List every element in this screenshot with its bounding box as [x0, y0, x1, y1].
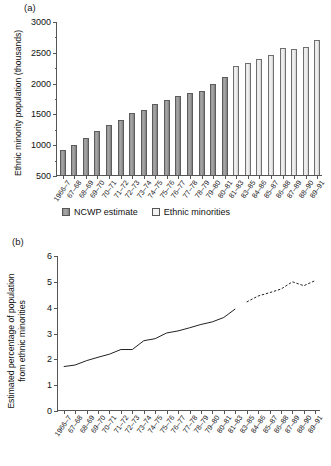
x-axis-tick — [225, 175, 226, 179]
y-axis-tick-label: 1 — [47, 381, 52, 390]
bar-69-70 — [94, 131, 100, 175]
bar-84-86 — [256, 59, 262, 175]
bar-81-83 — [233, 66, 239, 175]
x-axis-tick — [63, 175, 64, 179]
y-axis-tick-label: 2000 — [31, 79, 51, 88]
x-axis-tick — [167, 175, 168, 179]
bar-72-73 — [129, 113, 135, 175]
y-axis-tick-label: 2 — [47, 355, 52, 364]
ethnic-minorities-swatch-icon — [152, 208, 160, 216]
y-axis-tick-label: 2500 — [31, 48, 51, 57]
bar-79-80 — [210, 84, 216, 175]
panel-a-plot-area: 50010001500200025003000 1966–767–6868–69… — [56, 22, 322, 176]
bar-83-85 — [245, 63, 251, 175]
legend-item-ethnic-minorities: Ethnic minorities — [152, 207, 230, 217]
bar-89-91 — [314, 40, 320, 175]
y-axis-tick-label: 3000 — [31, 18, 51, 27]
legend-label-ethnic-minorities: Ethnic minorities — [164, 207, 230, 217]
x-axis-tick — [121, 175, 122, 179]
x-axis-tick — [306, 175, 307, 179]
bar-74-75 — [152, 104, 158, 175]
y-axis-tick-label: 6 — [47, 252, 52, 261]
x-axis-tick — [144, 175, 145, 179]
bar-70-71 — [106, 125, 112, 175]
bar-87-89 — [291, 49, 297, 175]
bar-88-90 — [303, 47, 309, 175]
panel-b-line-series — [58, 256, 321, 411]
bar-68-69 — [83, 138, 89, 175]
y-axis-tick-label: 0 — [47, 407, 52, 416]
panel-b-plot-area: 0123456 1966–767–6868–6969–7070–7171–727… — [57, 256, 320, 411]
bar-80-81 — [222, 77, 228, 175]
bar-67-68 — [71, 145, 77, 175]
y-axis-tick-label: 4 — [47, 303, 52, 312]
line-ethnic-minorities — [247, 281, 316, 302]
bar-73-74 — [141, 110, 147, 175]
x-axis-tick — [283, 175, 284, 179]
panel-a-legend: NCWP estimate Ethnic minorities — [62, 207, 230, 217]
bar-78-79 — [199, 91, 205, 175]
legend-item-ncwp-estimate: NCWP estimate — [62, 207, 138, 217]
panel-b-y-axis-title: Estimated percentage of population from … — [6, 266, 28, 416]
bar-1966-7 — [60, 150, 66, 175]
panel-b-line-chart: (b) Estimated percentage of population f… — [0, 234, 331, 466]
bar-76-77 — [175, 96, 181, 175]
x-axis-tick — [271, 175, 272, 179]
panel-a-y-axis-title: Ethnic minority population (thousands) — [13, 30, 23, 176]
ncwp-swatch-icon — [62, 208, 70, 216]
panel-a-bars — [57, 22, 322, 175]
line-ncwp-estimate — [64, 309, 236, 367]
x-axis-tick — [248, 175, 249, 179]
bar-71-72 — [118, 120, 124, 175]
y-axis-tick — [54, 411, 58, 412]
y-axis-tick-label: 3 — [47, 329, 52, 338]
legend-label-ncwp-estimate: NCWP estimate — [74, 207, 138, 217]
y-axis-tick — [53, 176, 57, 177]
y-axis-tick-label: 1000 — [31, 141, 51, 150]
bar-86-88 — [280, 48, 286, 175]
y-axis-tick-label: 1500 — [31, 110, 51, 119]
x-axis-tick — [202, 175, 203, 179]
y-axis-tick-label: 5 — [47, 277, 52, 286]
panel-a-label: (a) — [24, 2, 36, 13]
y-axis-tick-label: 500 — [36, 172, 51, 181]
bar-75-76 — [164, 100, 170, 175]
x-axis-tick — [86, 175, 87, 179]
panel-a-bar-chart: (a) Ethnic minority population (thousand… — [0, 0, 331, 232]
panel-b-label: (b) — [12, 236, 24, 247]
bar-85-87 — [268, 55, 274, 175]
bar-77-78 — [187, 93, 193, 175]
